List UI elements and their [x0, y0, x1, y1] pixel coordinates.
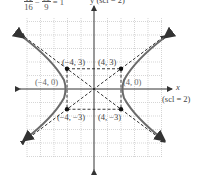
minus-sign: −: [35, 0, 40, 7]
y-axis-label: y (scl = 2): [90, 0, 125, 5]
asymptote-negative: [25, 37, 165, 142]
label-4-neg3: (4, −3): [98, 113, 121, 122]
point-neg4-neg3: [65, 107, 69, 111]
grid: [27, 18, 163, 157]
equation-rhs: = 1: [53, 0, 64, 7]
label-neg4-neg3: (−4, −3): [57, 113, 85, 122]
equation-title: x² 16 − y² 9 = 1: [24, 0, 64, 12]
label-neg4-3: (−4, 3): [62, 58, 85, 67]
hyperbola-graph: x² 16 − y² 9 = 1 y (scl = 2) x (scl = 2)…: [0, 0, 204, 189]
asymptote-positive: [25, 36, 165, 141]
label-neg4-0: (−4, 0): [35, 78, 58, 87]
label-4-3: (4, 3): [98, 58, 116, 67]
x-axis-label: x: [176, 83, 180, 92]
point-neg4-3: [65, 67, 69, 71]
y-fraction: y² 9: [42, 0, 51, 12]
x-scale-label: (scl = 2): [162, 95, 190, 104]
point-4-3: [119, 67, 123, 71]
x-fraction: x² 16: [24, 0, 33, 12]
point-4-neg3: [119, 107, 123, 111]
label-4-0: (4, 0): [123, 78, 141, 87]
